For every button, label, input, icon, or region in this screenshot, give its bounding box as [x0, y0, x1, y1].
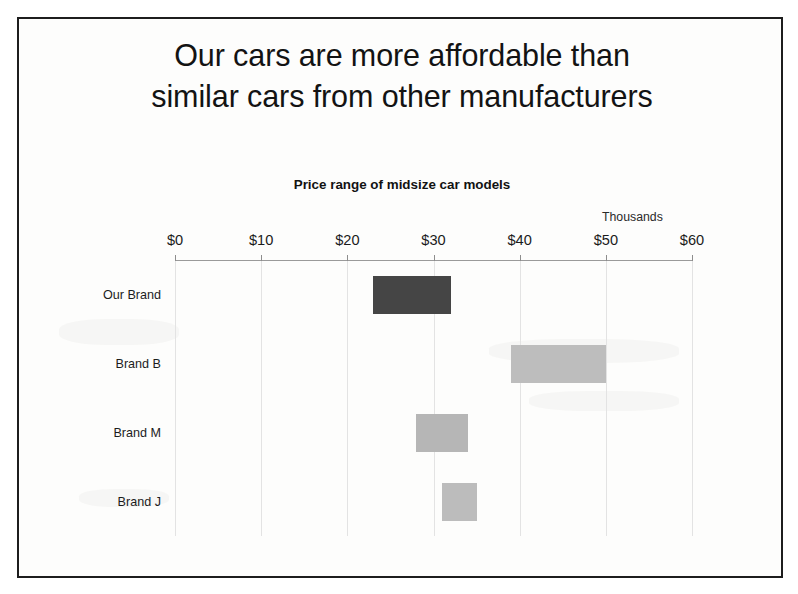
range-bar [511, 345, 606, 383]
category-label: Brand B [115, 357, 161, 371]
x-axis-tick-label: $60 [680, 232, 704, 248]
slide-frame: Our cars are more affordable than simila… [17, 17, 783, 578]
x-axis-tick-label: $20 [335, 232, 359, 248]
plot-area: $0$10$20$30$40$50$60 Our BrandBrand BBra… [175, 260, 692, 536]
gridline [606, 261, 607, 536]
x-axis-tick-label: $50 [594, 232, 618, 248]
category-label: Our Brand [103, 288, 161, 302]
gridline [520, 261, 521, 536]
chart-title: Price range of midsize car models [19, 177, 785, 192]
x-axis-tick-label: $10 [249, 232, 273, 248]
chart: Price range of midsize car models Thousa… [19, 19, 785, 580]
gridline [175, 261, 176, 536]
range-bar [373, 276, 451, 314]
x-axis-tick-label: $40 [507, 232, 531, 248]
category-label: Brand J [118, 495, 161, 509]
range-bar [416, 414, 468, 452]
gridline [261, 261, 262, 536]
range-bar [442, 483, 476, 521]
chart-units-note: Thousands [602, 210, 663, 224]
gridline [692, 261, 693, 536]
x-axis-tick-label: $30 [421, 232, 445, 248]
x-axis-tick-label: $0 [167, 232, 183, 248]
gridline [347, 261, 348, 536]
category-label: Brand M [113, 426, 161, 440]
